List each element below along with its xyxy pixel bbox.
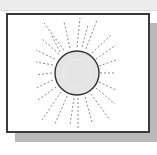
sun-icon <box>0 0 157 155</box>
sun-disc <box>55 51 99 95</box>
